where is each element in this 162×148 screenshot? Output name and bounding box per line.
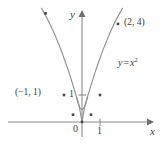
y-axis-arrowhead: [79, 10, 86, 17]
y-axis-label: y: [70, 9, 75, 20]
point-marker-neghalf-quarter: [72, 113, 75, 116]
point-label-neg1-1: (−1, 1): [15, 88, 41, 98]
y-tick-label-1: 1: [69, 89, 74, 99]
curve-equation-label: y=x2: [118, 58, 138, 68]
parabola-figure: y x 0 1 1 (−1, 1) (2, 4) y=x2: [0, 0, 162, 148]
point-label-2-4: (2, 4): [124, 18, 145, 28]
origin-label: 0: [73, 124, 78, 134]
point-marker-2-4: [117, 23, 120, 26]
x-tick-label-1: 1: [97, 126, 102, 136]
point-marker-origin: [81, 121, 84, 124]
curve-equation-equals: =: [122, 57, 130, 68]
curve-equation-exponent: 2: [135, 56, 138, 63]
point-marker-half-quarter: [90, 113, 93, 116]
point-marker-neg2-4: [44, 12, 47, 15]
point-marker-neg1-1: [63, 94, 66, 97]
x-axis-label: x: [150, 126, 155, 137]
point-marker-1-1: [99, 94, 102, 97]
